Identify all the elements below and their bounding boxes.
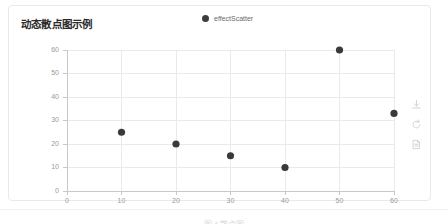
page-title: 动态散点图示例: [21, 16, 92, 31]
scatter-plot-svg: 01020304050600102030405060: [67, 50, 394, 191]
plot-area[interactable]: 01020304050600102030405060: [67, 50, 394, 191]
x-tick-label: 20: [172, 197, 180, 204]
x-tick-label: 10: [118, 197, 126, 204]
caption-divider: [0, 209, 448, 210]
y-tick-label: 20: [51, 140, 59, 147]
refresh-icon[interactable]: [411, 119, 422, 130]
chart-toolbox[interactable]: [411, 99, 422, 150]
data-point[interactable]: [281, 164, 288, 171]
data-point[interactable]: [118, 129, 125, 136]
y-tick-label: 50: [51, 69, 59, 76]
legend-circle-marker-icon: [202, 15, 209, 22]
y-tick-label: 10: [51, 163, 59, 170]
x-tick-label: 50: [336, 197, 344, 204]
data-point[interactable]: [390, 110, 397, 117]
figure-caption: 图 4 散点图: [0, 218, 448, 224]
page-root: 动态散点图示例 effectScatter 010203040506001020…: [0, 0, 448, 224]
chart-legend[interactable]: effectScatter: [202, 15, 253, 22]
y-tick-label: 40: [51, 93, 59, 100]
x-tick-label: 40: [281, 197, 289, 204]
x-tick-label: 60: [390, 197, 398, 204]
data-point[interactable]: [336, 46, 343, 53]
x-tick-label: 30: [227, 197, 235, 204]
download-icon[interactable]: [411, 99, 422, 110]
legend-item-label: effectScatter: [214, 15, 253, 22]
y-tick-label: 60: [51, 46, 59, 53]
y-tick-label: 30: [51, 116, 59, 123]
y-tick-label: 0: [55, 187, 59, 194]
chart-card: 动态散点图示例 effectScatter 010203040506001020…: [8, 5, 431, 201]
document-icon[interactable]: [411, 139, 422, 150]
data-point[interactable]: [227, 152, 234, 159]
x-tick-label: 0: [65, 197, 69, 204]
data-point[interactable]: [172, 140, 179, 147]
